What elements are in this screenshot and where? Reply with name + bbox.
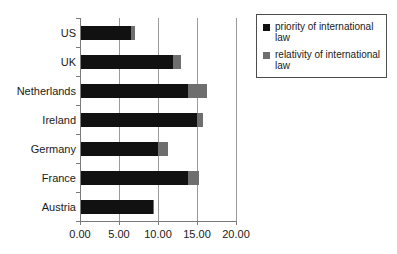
x-tick-label: 20.00	[216, 228, 256, 240]
chart-legend: priority of international law relativity…	[256, 14, 387, 78]
legend-entry-priority: priority of international law	[263, 21, 381, 43]
bar-row	[80, 113, 203, 127]
bar-segment-priority	[80, 171, 188, 185]
gridline-20	[236, 18, 237, 221]
bar-segment-priority	[80, 200, 153, 214]
x-tick-mark	[158, 221, 159, 225]
bar-segment-priority	[80, 26, 131, 40]
y-tick-mark	[76, 163, 80, 164]
bar-row	[80, 142, 168, 156]
y-tick-mark	[76, 18, 80, 19]
x-tick-mark	[80, 221, 81, 225]
x-tick-mark	[197, 221, 198, 225]
legend-swatch-priority-icon	[263, 24, 270, 31]
y-tick-mark	[76, 76, 80, 77]
legend-label-relativity: relativity of international law	[275, 49, 381, 71]
bar-segment-relativity	[153, 200, 154, 214]
bar-segment-relativity	[173, 55, 181, 69]
bar-segment-priority	[80, 142, 158, 156]
x-tick-mark	[119, 221, 120, 225]
bar-segment-relativity	[158, 142, 168, 156]
y-axis-category-label: Austria	[42, 201, 76, 213]
x-tick-mark	[236, 221, 237, 225]
bar-segment-relativity	[131, 26, 135, 40]
y-axis-category-label: Netherlands	[17, 85, 76, 97]
y-axis-category-label: US	[61, 27, 76, 39]
y-tick-mark	[76, 221, 80, 222]
x-tick-label: 5.00	[99, 228, 139, 240]
bar-row	[80, 200, 154, 214]
y-tick-mark	[76, 47, 80, 48]
y-tick-mark	[76, 134, 80, 135]
y-tick-mark	[76, 105, 80, 106]
bar-row	[80, 55, 181, 69]
y-axis-category-label: Ireland	[42, 114, 76, 126]
y-axis-category-label: UK	[61, 56, 76, 68]
legend-swatch-relativity-icon	[263, 52, 270, 59]
x-tick-label: 15.00	[177, 228, 217, 240]
bar-row	[80, 171, 199, 185]
bar-segment-relativity	[197, 113, 203, 127]
bar-segment-priority	[80, 113, 197, 127]
legend-entry-relativity: relativity of international law	[263, 49, 381, 71]
bar-segment-priority	[80, 84, 188, 98]
y-axis-category-label: France	[42, 172, 76, 184]
legend-label-priority: priority of international law	[275, 21, 381, 43]
bar-row	[80, 26, 135, 40]
y-tick-mark	[76, 192, 80, 193]
bar-row	[80, 84, 207, 98]
y-axis-category-label: Germany	[31, 143, 76, 155]
x-tick-label: 0.00	[60, 228, 100, 240]
y-axis-line	[80, 18, 81, 222]
x-tick-label: 10.00	[138, 228, 178, 240]
bar-chart: USUKNetherlandsIrelandGermanyFranceAustr…	[0, 0, 397, 254]
bar-segment-relativity	[188, 84, 208, 98]
bar-segment-relativity	[188, 171, 198, 185]
bar-segment-priority	[80, 55, 173, 69]
plot-area	[80, 18, 236, 221]
